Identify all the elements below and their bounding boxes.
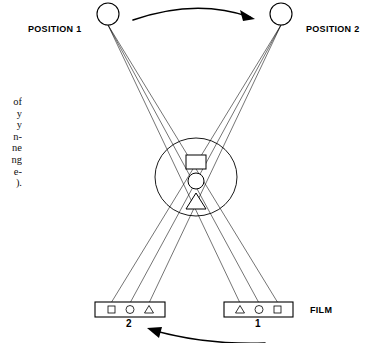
film-number-left: 2 — [126, 318, 132, 329]
figure-canvas: POSITION 1 POSITION 2 FILM 2 1 of y y n-… — [0, 0, 368, 343]
film-marker-circle-right — [255, 306, 263, 314]
top-rotation-arrow — [133, 8, 250, 20]
caption-line: ). — [0, 177, 22, 189]
object-circle — [188, 173, 204, 189]
caption-line: e- — [0, 166, 22, 178]
top-arrowhead — [240, 10, 255, 21]
source-circle-position-2 — [270, 3, 292, 25]
caption-line: n- — [0, 131, 22, 143]
film-marker-square-left — [108, 306, 115, 313]
object-square — [186, 155, 206, 169]
bottom-rotation-arrow — [152, 330, 265, 343]
label-film: FILM — [310, 305, 332, 315]
caption-line: of — [0, 96, 22, 108]
label-position-2: POSITION 2 — [306, 24, 360, 34]
caption-text-fragment: of y y n- ne ng e- ). — [0, 96, 22, 189]
caption-line: y — [0, 108, 22, 120]
caption-line: ng — [0, 154, 22, 166]
bottom-arrowhead — [147, 327, 162, 338]
film-number-right: 1 — [255, 318, 261, 329]
source-circle-position-1 — [97, 3, 119, 25]
label-position-1: POSITION 1 — [28, 24, 82, 34]
film-marker-square-right — [274, 306, 281, 313]
caption-line: ne — [0, 142, 22, 154]
caption-line: y — [0, 119, 22, 131]
diagram-svg — [0, 0, 368, 343]
film-marker-circle-left — [126, 306, 134, 314]
